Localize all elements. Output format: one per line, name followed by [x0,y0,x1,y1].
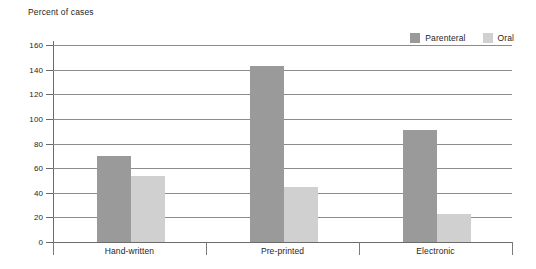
y-axis-tick-label: 140 [29,65,43,74]
y-axis-tick [46,119,53,120]
y-axis-tick-label: 80 [34,139,43,148]
gridline [53,45,512,46]
chart-legend: Parenteral Oral [410,33,514,43]
x-axis-category-label: Hand-written [53,246,206,256]
y-axis-tick-label: 120 [29,90,43,99]
legend-item-oral: Oral [483,33,514,43]
y-axis-tick-label: 100 [29,114,43,123]
legend-label-parenteral: Parenteral [425,33,465,43]
y-axis-tick [46,144,53,145]
y-axis-tick-label: 0 [38,238,43,247]
plot-area [53,45,512,242]
bar-chart-figure: Percent of cases Parenteral Oral 1601401… [0,0,536,269]
y-axis-tick-label: 60 [34,164,43,173]
bar-parenteral-pre-printed [250,66,284,242]
bar-parenteral-hand-written [97,156,131,242]
y-axis-tick-label: 40 [34,188,43,197]
y-axis-tick-label: 20 [34,213,43,222]
legend-swatch-oral [483,33,493,43]
x-axis-line [53,242,512,243]
bar-parenteral-electronic [403,130,437,242]
y-axis-labels: 160140120100806040200 [0,0,43,269]
x-axis-end-tick [53,242,54,255]
x-axis-category-label: Electronic [359,246,512,256]
x-axis-category-label: Pre-printed [206,246,359,256]
y-axis-tick [46,193,53,194]
bar-oral-pre-printed [284,187,318,242]
y-axis-tick [46,94,53,95]
bar-oral-hand-written [131,176,165,242]
y-axis-tick [46,70,53,71]
y-axis-tick [46,45,53,46]
y-axis-tick [46,242,53,243]
bar-oral-electronic [437,214,471,242]
x-axis-end-tick [512,242,513,255]
legend-swatch-parenteral [410,33,420,43]
legend-label-oral: Oral [498,33,514,43]
y-axis-tick [46,168,53,169]
legend-item-parenteral: Parenteral [410,33,465,43]
y-axis-tick [46,217,53,218]
y-axis-tick-label: 160 [29,41,43,50]
